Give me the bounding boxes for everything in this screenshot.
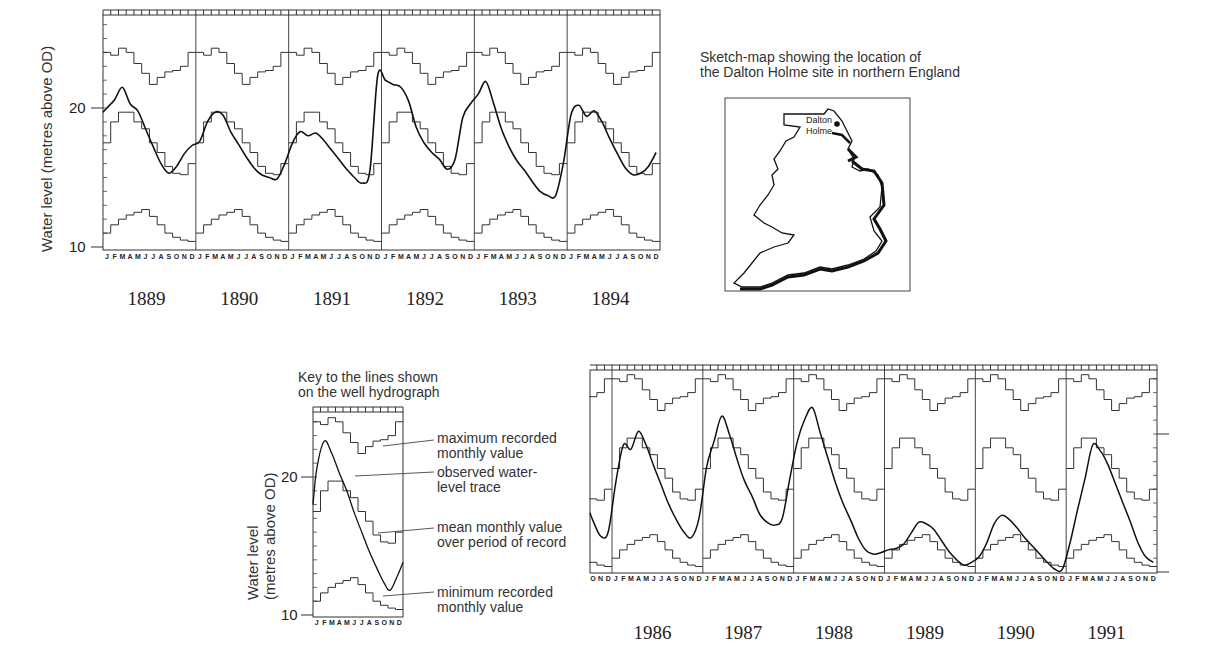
svg-text:A: A: [999, 575, 1004, 582]
svg-text:J: J: [924, 575, 928, 582]
svg-text:F: F: [712, 575, 717, 582]
svg-text:S: S: [856, 575, 861, 582]
svg-text:J: J: [796, 575, 800, 582]
svg-text:A: A: [666, 575, 671, 582]
svg-text:J: J: [1015, 575, 1019, 582]
svg-text:O: O: [954, 575, 960, 582]
svg-text:D: D: [969, 575, 974, 582]
svg-text:A: A: [818, 575, 823, 582]
svg-text:N: N: [780, 575, 785, 582]
svg-text:J: J: [977, 575, 981, 582]
svg-text:J: J: [360, 619, 364, 626]
svg-text:D: D: [878, 575, 883, 582]
bottom-year-label-1990: 1990: [997, 622, 1035, 644]
svg-text:A: A: [1090, 575, 1095, 582]
svg-text:A: A: [1120, 575, 1125, 582]
svg-text:S: S: [374, 619, 379, 626]
svg-text:J: J: [1106, 575, 1110, 582]
svg-text:M: M: [1097, 575, 1103, 582]
svg-text:S: S: [1037, 575, 1042, 582]
svg-text:M: M: [825, 575, 831, 582]
svg-text:M: M: [643, 575, 649, 582]
bottom-year-label-1989: 1989: [906, 622, 944, 644]
svg-text:N: N: [1052, 575, 1057, 582]
svg-text:A: A: [908, 575, 913, 582]
svg-text:A: A: [367, 619, 372, 626]
svg-text:D: D: [1060, 575, 1065, 582]
svg-text:M: M: [719, 575, 725, 582]
svg-text:J: J: [352, 619, 356, 626]
svg-text:M: M: [810, 575, 816, 582]
svg-text:D: D: [397, 619, 402, 626]
svg-text:F: F: [985, 575, 990, 582]
svg-text:N: N: [961, 575, 966, 582]
svg-text:J: J: [1023, 575, 1027, 582]
svg-text:O: O: [863, 575, 869, 582]
svg-text:D: D: [696, 575, 701, 582]
svg-text:F: F: [894, 575, 899, 582]
svg-text:M: M: [1006, 575, 1012, 582]
svg-text:M: M: [1082, 575, 1088, 582]
svg-text:A: A: [848, 575, 853, 582]
svg-text:J: J: [614, 575, 618, 582]
svg-text:O: O: [772, 575, 778, 582]
svg-text:F: F: [1075, 575, 1080, 582]
svg-text:N: N: [1143, 575, 1148, 582]
svg-text:S: S: [1128, 575, 1133, 582]
svg-text:A: A: [337, 619, 342, 626]
bottom-year-label-1987: 1987: [724, 622, 762, 644]
svg-text:N: N: [389, 619, 394, 626]
svg-text:F: F: [621, 575, 626, 582]
svg-text:N: N: [598, 575, 603, 582]
svg-text:S: S: [765, 575, 770, 582]
bottom-year-label-1988: 1988: [815, 622, 853, 644]
svg-text:O: O: [681, 575, 687, 582]
svg-text:O: O: [1044, 575, 1050, 582]
svg-text:M: M: [344, 619, 350, 626]
svg-text:J: J: [932, 575, 936, 582]
svg-text:J: J: [1113, 575, 1117, 582]
svg-text:F: F: [322, 619, 327, 626]
svg-text:O: O: [1135, 575, 1141, 582]
bottom-year-label-1986: 1986: [633, 622, 671, 644]
svg-text:S: S: [674, 575, 679, 582]
svg-text:J: J: [652, 575, 656, 582]
svg-text:D: D: [1151, 575, 1156, 582]
svg-text:M: M: [991, 575, 997, 582]
bottom-year-label-1991: 1991: [1088, 622, 1126, 644]
svg-text:A: A: [1030, 575, 1035, 582]
svg-text:J: J: [705, 575, 709, 582]
svg-text:A: A: [727, 575, 732, 582]
svg-text:J: J: [750, 575, 754, 582]
svg-text:M: M: [329, 619, 335, 626]
svg-text:A: A: [757, 575, 762, 582]
svg-text:D: D: [787, 575, 792, 582]
svg-text:N: N: [689, 575, 694, 582]
svg-text:J: J: [841, 575, 845, 582]
svg-text:M: M: [900, 575, 906, 582]
svg-text:J: J: [833, 575, 837, 582]
svg-text:F: F: [803, 575, 808, 582]
svg-text:M: M: [916, 575, 922, 582]
svg-text:O: O: [590, 575, 596, 582]
svg-text:A: A: [939, 575, 944, 582]
svg-text:J: J: [886, 575, 890, 582]
svg-text:J: J: [1068, 575, 1072, 582]
svg-text:O: O: [382, 619, 388, 626]
svg-text:J: J: [315, 619, 319, 626]
bottom-chart-plot: ONDJFMAMJJASONDJFMAMJJASONDJFMAMJJASONDJ…: [0, 0, 1210, 600]
svg-text:S: S: [946, 575, 951, 582]
svg-text:M: M: [734, 575, 740, 582]
svg-text:A: A: [636, 575, 641, 582]
svg-text:M: M: [628, 575, 634, 582]
svg-text:J: J: [659, 575, 663, 582]
svg-text:D: D: [606, 575, 611, 582]
svg-text:J: J: [743, 575, 747, 582]
svg-text:N: N: [871, 575, 876, 582]
